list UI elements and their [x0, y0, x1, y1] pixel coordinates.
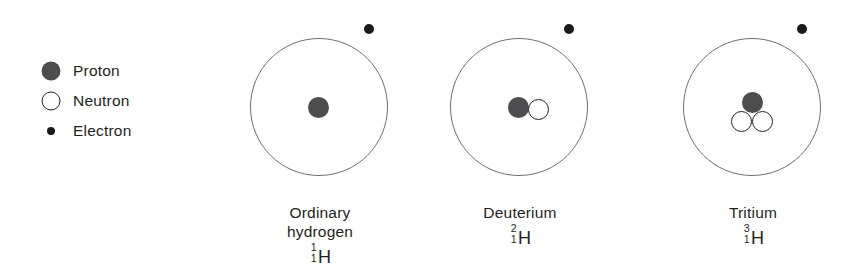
- isotope-notation: 2 1 H: [509, 224, 531, 248]
- atomic-number: 1: [311, 253, 317, 263]
- isotope-numbers: 1 1: [309, 243, 317, 263]
- element-symbol: H: [318, 247, 331, 267]
- orbiting-electron: [797, 24, 807, 34]
- isotope-numbers: 3 1: [742, 224, 750, 244]
- nucleus-proton: [508, 97, 529, 118]
- legend-item-neutron: Neutron: [38, 86, 208, 116]
- element-symbol: H: [518, 228, 531, 248]
- legend-item-electron: Electron: [38, 116, 208, 146]
- atom-deuterium: Deuterium 2 1 H: [450, 0, 590, 274]
- atom-name-line1: Deuterium: [430, 203, 610, 222]
- caption-deuterium: Deuterium 2 1 H: [430, 203, 610, 248]
- legend-item-proton: Proton: [38, 56, 208, 86]
- atom-name-line1: Tritium: [663, 203, 843, 222]
- proton-marker-icon: [38, 58, 64, 84]
- nucleus-proton: [308, 97, 329, 118]
- atomic-number: 1: [744, 234, 750, 244]
- isotope-notation: 1 1 H: [309, 243, 331, 267]
- mass-number: 1: [311, 242, 317, 252]
- nucleus-neutron: [528, 99, 549, 120]
- legend-label-proton: Proton: [73, 63, 120, 79]
- nucleus-neutron-left: [731, 111, 752, 132]
- legend: Proton Neutron Electron: [38, 56, 208, 146]
- mass-number: 3: [744, 223, 750, 233]
- caption-tritium: Tritium 3 1 H: [663, 203, 843, 248]
- electron-marker-icon: [38, 118, 64, 144]
- hydrogen-isotopes-diagram: Proton Neutron Electron Ordinary hydroge…: [0, 0, 859, 274]
- isotope-numbers: 2 1: [509, 224, 517, 244]
- atomic-number: 1: [511, 234, 517, 244]
- element-symbol: H: [751, 228, 764, 248]
- atom-name-line1: Ordinary: [230, 203, 410, 222]
- atom-name-line2: hydrogen: [230, 222, 410, 241]
- nucleus-proton: [742, 92, 763, 113]
- mass-number: 2: [511, 223, 517, 233]
- orbiting-electron: [564, 24, 574, 34]
- neutron-marker-icon: [38, 88, 64, 114]
- nucleus-neutron-right: [752, 111, 773, 132]
- atom-tritium: Tritium 3 1 H: [683, 0, 823, 274]
- atom-ordinary-hydrogen: Ordinary hydrogen 1 1 H: [250, 0, 390, 274]
- orbiting-electron: [364, 24, 374, 34]
- caption-ordinary-hydrogen: Ordinary hydrogen 1 1 H: [230, 203, 410, 267]
- legend-label-electron: Electron: [73, 123, 131, 139]
- isotope-notation: 3 1 H: [742, 224, 764, 248]
- legend-label-neutron: Neutron: [73, 93, 130, 109]
